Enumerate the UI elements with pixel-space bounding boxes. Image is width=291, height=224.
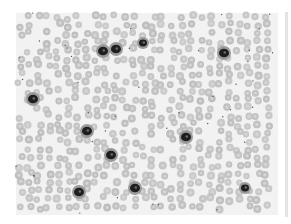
right-edge-strip bbox=[285, 12, 288, 217]
blood-smear-image bbox=[0, 0, 291, 224]
